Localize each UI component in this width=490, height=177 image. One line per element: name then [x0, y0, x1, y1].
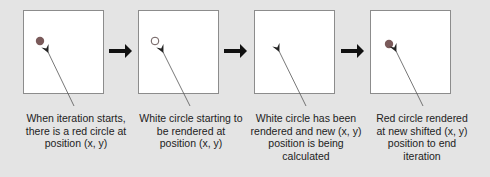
pointer-arrow-icon — [163, 52, 190, 106]
white-circle-icon — [151, 37, 159, 45]
step-2-caption: White circle starting to be rendered at … — [139, 112, 243, 150]
step-3-caption: White circle has been rendered and new (… — [250, 112, 362, 163]
flow-arrow-icon — [224, 44, 247, 58]
red-circle-icon — [385, 40, 393, 48]
pointer-arrow-icon — [48, 52, 74, 106]
flow-arrow-icon — [109, 44, 132, 58]
red-circle-icon — [36, 37, 44, 45]
flow-arrow-icon — [341, 44, 364, 58]
step-4-caption: Red circle rendered at new shifted (x, y… — [372, 112, 472, 163]
pointer-arrow-icon — [279, 51, 306, 106]
pointer-arrow-icon — [396, 51, 423, 106]
step-1-caption: When iteration starts, there is a red ci… — [20, 112, 132, 150]
